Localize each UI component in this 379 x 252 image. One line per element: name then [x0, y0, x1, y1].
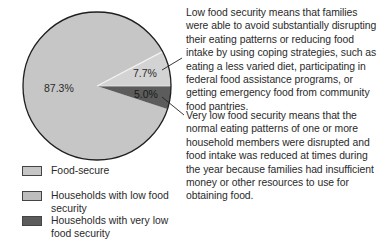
legend-label: Households with very low food security [51, 214, 181, 240]
legend-label: Food-secure [51, 164, 181, 177]
annotation-low-food-security: Low food security means that families we… [186, 6, 379, 113]
legend-swatch-food-secure [22, 166, 42, 176]
legend-swatch-very-low-food-security [22, 216, 42, 226]
annotation-very-low-food-security: Very low food security means that the no… [186, 109, 379, 203]
label-very-low-pct: 5.0% [134, 88, 158, 100]
label-low-pct: 7.7% [133, 67, 157, 79]
legend-swatch-low-food-security [22, 191, 42, 201]
label-food-secure-pct: 87.3% [44, 82, 74, 94]
legend-label: Households with low food security [51, 189, 181, 215]
